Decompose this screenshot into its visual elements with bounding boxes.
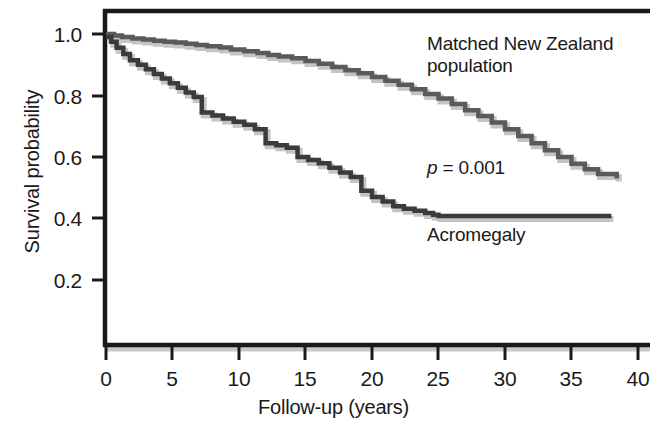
y-tick-label-0-6: 0.6 [26,147,82,168]
x-tick-label-15: 15 [285,368,325,389]
x-tick-label-10: 10 [219,368,259,389]
x-axis-title: Follow-up (years) [258,396,409,419]
x-tick-label-40: 40 [618,368,650,389]
x-tick-label-0: 0 [86,368,126,389]
x-tick-label-35: 35 [551,368,591,389]
p-value-number: = 0.001 [437,157,505,178]
population-curve-label: Matched New Zealand population [427,33,613,78]
p-value-symbol: p [427,157,437,178]
x-tick-label-20: 20 [352,368,392,389]
survival-curve-figure: Survival probability Follow-up (years) [0,0,650,423]
y-tick-label-0-4: 0.4 [26,208,82,229]
y-tick-label-0-8: 0.8 [26,86,82,107]
y-tick-label-1-0: 1.0 [26,24,82,45]
y-tick-label-0-2: 0.2 [26,270,82,291]
x-tick-label-25: 25 [418,368,458,389]
x-tick-label-30: 30 [485,368,525,389]
p-value-annotation: p = 0.001 [427,157,505,179]
x-tick-label-5: 5 [152,368,192,389]
acromegaly-curve-label: Acromegaly [427,224,525,246]
